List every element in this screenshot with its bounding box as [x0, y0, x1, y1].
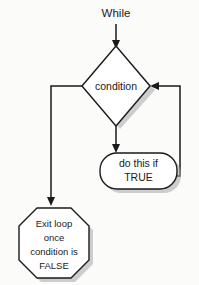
start-label: While [102, 7, 131, 19]
exit-label-line2: once [44, 232, 65, 243]
exit-label-line4: FALSE [39, 260, 69, 271]
edge-condition-to-action [112, 126, 120, 153]
edge-start-to-condition [112, 24, 120, 49]
condition-label: condition [95, 80, 137, 92]
exit-label-line1: Exit loop [36, 218, 72, 229]
flowchart-diagram: condition do this if TRUE Exit loop once… [0, 0, 199, 285]
node-condition: condition [82, 46, 155, 129]
action-label-line1: do this if [119, 157, 158, 169]
node-exit: Exit loop once condition is FALSE [19, 208, 93, 282]
action-label-line2: TRUE [124, 171, 153, 183]
node-action: do this if TRUE [100, 153, 181, 193]
flowchart-canvas: condition do this if TRUE Exit loop once… [0, 0, 199, 285]
exit-label-line3: condition is [30, 246, 78, 257]
edge-condition-to-exit [47, 86, 82, 206]
